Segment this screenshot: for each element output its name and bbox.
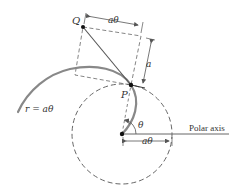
label-q: Q (72, 15, 80, 26)
label-side-dimension: a (146, 59, 151, 69)
label-top-dimension: aθ (108, 15, 119, 25)
top-dimension-ext-left (84, 13, 86, 24)
side-dimension-ext (146, 38, 155, 40)
point-p (129, 83, 133, 87)
polar-spiral-diagram: Q P aθ a r = aθ θ aθ Polar axis (0, 0, 239, 194)
dashed-rectangle (75, 27, 141, 85)
label-bottom-dimension: aθ (142, 136, 153, 146)
label-polar-axis: Polar axis (189, 123, 225, 133)
point-q (81, 25, 85, 29)
label-p: P (120, 89, 128, 100)
top-dimension-ext-right (141, 22, 143, 33)
spiral-curve (18, 67, 136, 134)
point-origin (120, 132, 124, 136)
segment-qp (83, 27, 131, 85)
label-angle: θ (138, 120, 144, 130)
label-spiral-equation: r = aθ (25, 104, 54, 114)
